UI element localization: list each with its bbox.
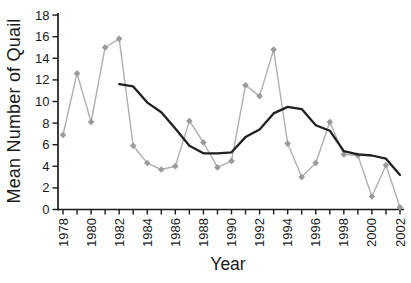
y-tick-label: 12 [35, 72, 49, 87]
annual-mean-quail-marker [102, 44, 109, 51]
annual-mean-quail-marker [158, 166, 165, 173]
x-tick-label-1994: 1994 [280, 218, 295, 247]
x-tick-label-1982: 1982 [112, 218, 127, 247]
chart-canvas: 0246810121416181978198019821984198619881… [0, 0, 411, 283]
x-tick-label-2000: 2000 [364, 218, 379, 247]
y-tick-label: 8 [42, 116, 49, 131]
x-tick-label-1986: 1986 [168, 218, 183, 247]
y-tick-label: 18 [35, 8, 49, 23]
x-tick-label-1992: 1992 [252, 218, 267, 247]
annual-mean-quail-line [63, 39, 400, 207]
x-tick-label-1980: 1980 [84, 218, 99, 247]
x-tick-label-2002: 2002 [393, 218, 408, 247]
x-tick-label-1984: 1984 [140, 218, 155, 247]
annual-mean-quail-marker [74, 70, 81, 77]
annual-mean-quail-marker [228, 158, 235, 165]
x-tick-label-1988: 1988 [196, 218, 211, 247]
x-axis-title: Year [210, 254, 245, 275]
x-tick-label-1978: 1978 [56, 218, 71, 247]
y-tick-label: 6 [42, 137, 49, 152]
x-tick-label-1990: 1990 [224, 218, 239, 247]
annual-mean-quail-marker [172, 163, 179, 170]
annual-mean-quail-marker [284, 140, 291, 147]
y-tick-label: 14 [35, 51, 49, 66]
y-tick-label: 2 [42, 180, 49, 195]
annual-mean-quail-marker [214, 164, 221, 171]
x-tick-label-1998: 1998 [336, 218, 351, 247]
x-tick-label-1996: 1996 [308, 218, 323, 247]
annual-mean-quail-marker [60, 132, 67, 139]
annual-mean-quail-marker [270, 46, 277, 53]
quail-population-chart: 0246810121416181978198019821984198619881… [0, 0, 411, 283]
annual-mean-quail-marker [369, 193, 376, 200]
annual-mean-quail-marker [116, 36, 123, 43]
y-axis-title: Mean Number of Quail [4, 18, 25, 203]
annual-mean-quail-marker [88, 119, 95, 126]
y-tick-label: 4 [42, 159, 49, 174]
y-tick-label: 10 [35, 94, 49, 109]
y-tick-label: 16 [35, 29, 49, 44]
y-tick-label: 0 [42, 202, 49, 217]
annual-mean-quail-marker [326, 119, 333, 126]
